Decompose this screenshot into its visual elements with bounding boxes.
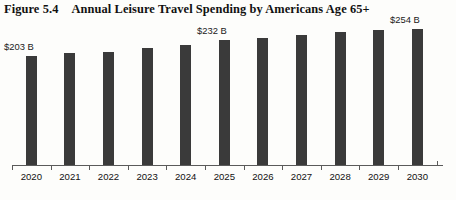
tick-2028: [321, 165, 322, 170]
bar-2026[interactable]: [244, 38, 283, 165]
bar-rect-2023: [142, 48, 153, 165]
x-label-2026: 2026: [244, 171, 283, 182]
tick-2025: [205, 165, 206, 170]
tick-2021: [51, 165, 52, 170]
tick-2027: [282, 165, 283, 170]
tick-2022: [89, 165, 90, 170]
plot-area: $203 B$232 B$254 B: [0, 20, 456, 166]
bar-series: $203 B$232 B$254 B: [0, 20, 456, 165]
figure-chart: Figure 5.4Annual Leisure Travel Spending…: [0, 0, 456, 200]
value-label-2025: $232 B: [197, 25, 227, 36]
bar-rect-2028: [335, 32, 346, 165]
bar-2027[interactable]: [282, 35, 321, 165]
x-axis-labels: 2020202120222023202420252026202720282029…: [0, 171, 456, 187]
tick-2030: [398, 165, 399, 170]
tick-2023: [128, 165, 129, 170]
bar-2025[interactable]: [205, 40, 244, 165]
tick-end: [437, 161, 438, 166]
tick-2020: [12, 165, 13, 170]
x-label-2025: 2025: [205, 171, 244, 182]
value-label-2030: $254 B: [390, 14, 420, 25]
x-label-2023: 2023: [128, 171, 167, 182]
x-label-2028: 2028: [321, 171, 360, 182]
bar-2020[interactable]: [12, 56, 51, 165]
figure-title-text: Annual Leisure Travel Spending by Americ…: [71, 2, 369, 16]
x-label-2024: 2024: [166, 171, 205, 182]
bar-2022[interactable]: [89, 52, 128, 165]
bar-2023[interactable]: [128, 48, 167, 165]
bar-rect-2024: [180, 45, 191, 165]
bar-rect-2025: [219, 40, 230, 165]
bar-2024[interactable]: [166, 45, 205, 165]
bar-rect-2021: [64, 53, 75, 165]
bar-rect-2030: [412, 29, 423, 165]
bar-2030[interactable]: [398, 29, 437, 165]
x-label-2020: 2020: [12, 171, 51, 182]
bar-2028[interactable]: [321, 32, 360, 165]
x-axis-line: [12, 165, 443, 166]
value-label-2020: $203 B: [4, 41, 34, 52]
bar-2029[interactable]: [359, 30, 398, 165]
x-label-2027: 2027: [282, 171, 321, 182]
bar-2021[interactable]: [51, 53, 90, 165]
x-label-2021: 2021: [51, 171, 90, 182]
bar-rect-2029: [373, 30, 384, 165]
bar-rect-2022: [103, 52, 114, 165]
bar-rect-2020: [26, 56, 37, 165]
bar-rect-2027: [296, 35, 307, 165]
bar-rect-2026: [257, 38, 268, 165]
tick-2024: [166, 165, 167, 170]
figure-title: Figure 5.4Annual Leisure Travel Spending…: [4, 2, 370, 17]
x-label-2029: 2029: [359, 171, 398, 182]
tick-2026: [244, 165, 245, 170]
x-label-2022: 2022: [89, 171, 128, 182]
figure-number: Figure 5.4: [4, 2, 58, 16]
x-label-2030: 2030: [398, 171, 437, 182]
tick-2029: [359, 165, 360, 170]
